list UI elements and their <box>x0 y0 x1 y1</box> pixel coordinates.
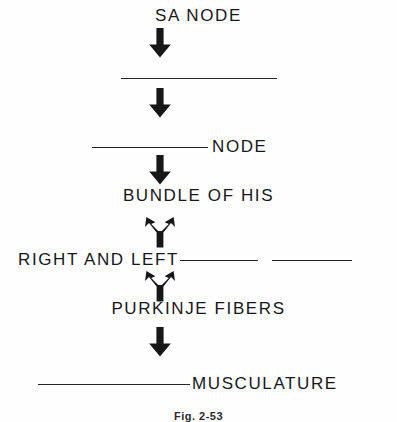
answer-blank-5[interactable] <box>38 384 190 385</box>
answer-blank-3[interactable] <box>180 260 258 261</box>
step-label-purkinje-fibers: PURKINJE FIBERS <box>111 299 285 319</box>
step-av-node-blank-upper <box>0 78 397 79</box>
conduction-pathway-diagram: SA NODE NODE BUNDLE OF HIS RIG <box>0 0 397 422</box>
down-arrow-icon-1 <box>143 28 177 62</box>
step-label-musculature: MUSCULATURE <box>192 374 338 394</box>
step-label-sa-node: SA NODE <box>155 6 242 26</box>
step-right-and-left: RIGHT AND LEFT <box>18 250 352 270</box>
step-sa-node: SA NODE <box>0 6 397 26</box>
down-arrow-icon-4 <box>143 327 177 361</box>
down-arrow-icon-2 <box>143 88 177 122</box>
answer-blank-2[interactable] <box>92 147 208 148</box>
step-label-right-and-left: RIGHT AND LEFT <box>18 250 179 270</box>
answer-blank-1[interactable] <box>121 78 277 79</box>
branch-arrow-icon-1 <box>143 216 177 252</box>
step-musculature: MUSCULATURE <box>38 374 338 394</box>
step-bundle-of-his: BUNDLE OF HIS <box>0 186 397 206</box>
answer-blank-4[interactable] <box>272 260 352 261</box>
down-arrow-icon-3 <box>143 155 177 189</box>
step-label-node: NODE <box>212 137 268 157</box>
step-node: NODE <box>92 137 268 157</box>
figure-caption: Fig. 2-53 <box>0 410 397 422</box>
step-label-bundle-of-his: BUNDLE OF HIS <box>123 186 274 206</box>
step-purkinje-fibers: PURKINJE FIBERS <box>0 299 397 319</box>
